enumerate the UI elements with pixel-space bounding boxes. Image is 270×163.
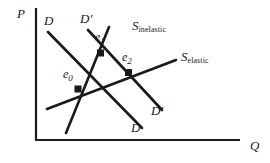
e1-subscript: 1 — [100, 36, 105, 46]
equilibrium-point-e0 — [75, 86, 82, 93]
demand-shifted-prime-top: ′ — [89, 11, 92, 26]
demand-shifted-prime-bottom: ′ — [160, 103, 163, 118]
quantity-axis-label: Q — [250, 139, 259, 152]
demand-curve-original-label-top: D — [44, 14, 53, 27]
demand-shifted-letter-top: D — [80, 11, 89, 26]
supply-curve-elastic-label: Selastic — [181, 50, 209, 65]
equilibrium-label-e0: e0 — [63, 68, 73, 83]
demand-curve-shifted-label-top: D′ — [80, 12, 92, 25]
supply-elastic-subscript: elastic — [188, 56, 209, 65]
equilibrium-point-e2 — [125, 69, 132, 76]
e2-subscript: 2 — [127, 56, 132, 66]
e0-subscript: 0 — [68, 73, 73, 83]
demand-curve-original-label-bottom: D — [131, 121, 140, 134]
equilibrium-point-e1 — [97, 50, 104, 57]
equilibrium-label-e1: e1 — [95, 31, 105, 46]
demand-curve-shifted-label-bottom: D′ — [151, 104, 163, 117]
demand-shifted-letter-bottom: D — [151, 103, 160, 118]
supply-demand-figure: P Q D D′ D D′ Sinelastic Selastic e0 e1 … — [0, 0, 270, 163]
price-axis-label: P — [17, 7, 25, 20]
equilibrium-label-e2: e2 — [122, 51, 132, 66]
supply-curve-inelastic-label: Sinelastic — [132, 19, 166, 34]
supply-inelastic-subscript: inelastic — [139, 25, 167, 34]
